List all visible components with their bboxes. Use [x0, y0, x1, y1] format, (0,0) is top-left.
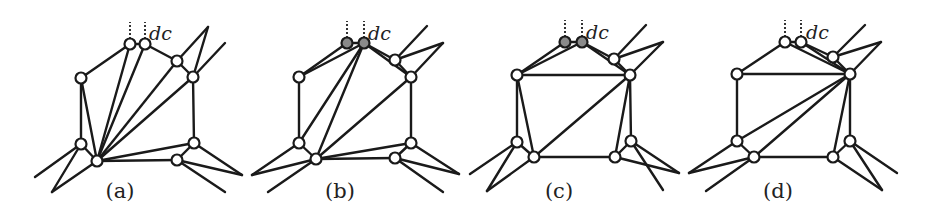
vertex	[796, 37, 807, 48]
vertex	[172, 155, 183, 166]
vertex	[188, 72, 199, 83]
dc-label: dc	[806, 21, 829, 43]
vertex	[406, 72, 417, 83]
vertex	[294, 138, 305, 149]
vertex	[732, 136, 743, 147]
panel-c: dc(c)	[470, 20, 679, 203]
edge	[631, 141, 663, 190]
vertex	[845, 69, 856, 80]
edge	[299, 43, 364, 143]
vertex	[390, 153, 401, 164]
edge	[785, 42, 850, 74]
edge	[487, 142, 517, 191]
edge	[97, 77, 193, 161]
dc-label: dc	[368, 22, 391, 44]
edges	[470, 25, 679, 191]
vertex	[294, 72, 305, 83]
vertex	[610, 152, 621, 163]
edge	[364, 43, 411, 77]
dc-label: dc	[149, 22, 172, 44]
edges	[689, 25, 897, 191]
vertex	[780, 37, 791, 48]
vertex	[625, 70, 636, 81]
vertex	[125, 39, 136, 50]
edge	[517, 42, 582, 75]
vertex	[609, 54, 620, 65]
vertex	[512, 137, 523, 148]
edge	[52, 161, 97, 192]
vertex	[172, 56, 183, 67]
vertex	[828, 52, 839, 63]
vertex	[749, 152, 760, 163]
vertex	[845, 136, 856, 147]
vertex	[342, 38, 353, 49]
graph-figure: dc(a)dc(b)dc(c)dc(d)	[0, 0, 933, 218]
panel-caption: (b)	[325, 179, 355, 203]
vertex	[390, 55, 401, 66]
panel-a: dc(a)	[35, 22, 242, 203]
vertex	[189, 138, 200, 149]
edge	[411, 143, 459, 174]
panel-d: dc(d)	[689, 20, 897, 203]
vertex	[92, 156, 103, 167]
vertex	[76, 73, 87, 84]
edge	[52, 144, 81, 192]
vertex	[311, 154, 322, 165]
edge	[97, 61, 177, 161]
edges	[252, 26, 459, 192]
panel-b: dc(b)	[252, 21, 459, 203]
edge	[316, 158, 395, 159]
panel-caption: (d)	[763, 179, 793, 203]
edge	[487, 157, 534, 191]
vertex	[512, 70, 523, 81]
vertex	[828, 152, 839, 163]
panel-caption: (a)	[106, 179, 135, 203]
vertex	[560, 37, 571, 48]
edge	[737, 74, 850, 141]
edge	[833, 157, 882, 190]
edges	[35, 27, 242, 192]
vertex	[626, 136, 637, 147]
edge	[97, 160, 177, 161]
vertex	[732, 69, 743, 80]
edge	[737, 42, 785, 74]
edge	[193, 77, 194, 143]
edge	[850, 141, 897, 173]
edge	[35, 144, 81, 177]
dc-label: dc	[586, 21, 609, 43]
edge	[630, 75, 631, 141]
edge	[534, 75, 630, 157]
vertex	[529, 152, 540, 163]
vertex	[406, 138, 417, 149]
edge	[316, 77, 411, 159]
edge	[582, 42, 630, 75]
panel-caption: (c)	[545, 179, 573, 203]
edge	[470, 142, 517, 174]
vertex	[76, 139, 87, 150]
edge	[850, 141, 882, 190]
edge	[97, 44, 130, 161]
